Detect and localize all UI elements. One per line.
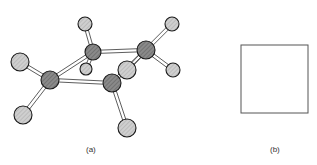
atoms-layer xyxy=(11,17,180,137)
substituent-atom xyxy=(118,119,136,137)
substituent-atom xyxy=(78,17,92,31)
carbon-atom xyxy=(41,71,59,89)
molecule-figure xyxy=(0,0,317,165)
carbon-atom xyxy=(103,74,121,92)
carbon-atom xyxy=(85,44,101,60)
substituent-atom xyxy=(166,63,180,77)
panel-a-label: (a) xyxy=(86,145,96,154)
substituent-atom xyxy=(80,63,92,75)
substituent-atom xyxy=(11,53,29,71)
substituent-atom xyxy=(165,17,179,31)
panel-b-label: (b) xyxy=(270,145,280,154)
substituent-atom xyxy=(118,61,136,79)
carbon-atom xyxy=(137,41,155,59)
substituent-atom xyxy=(14,106,32,124)
square-shape xyxy=(241,45,308,113)
